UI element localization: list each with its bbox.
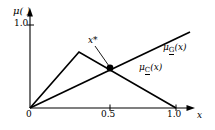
x-star-point-marker [107, 65, 114, 72]
fuzzy-underbar-icon [145, 74, 150, 75]
x-axis-label: x [197, 111, 202, 120]
constraint-curve-subscript-text: C [145, 66, 150, 74]
x-star-annotation: x* [88, 36, 98, 45]
x-tick-label-0: 0 [26, 110, 32, 119]
goal-curve-label-subscript: G [169, 47, 175, 54]
constraint-curve-label: μC(x) [139, 63, 162, 74]
x-axis-arrow-icon [187, 105, 196, 111]
x-tick-label-05: 0.5 [101, 110, 115, 119]
figure-canvas: μ( ) 1.0 0 0.5 1.0 x x* μG(x) μC(x) [0, 0, 215, 130]
goal-curve-label-arg: (x) [174, 42, 186, 52]
goal-curve-label: μG(x) [163, 43, 187, 54]
constraint-curve-label-arg: (x) [150, 62, 162, 72]
goal-curve-subscript-text: G [169, 46, 175, 54]
y-tick-label-1: 1.0 [14, 19, 28, 28]
fuzzy-underbar-icon [169, 54, 175, 55]
constraint-curve-label-subscript: C [145, 67, 150, 74]
x-tick-label-10: 1.0 [167, 110, 181, 119]
y-axis-label: μ( ) [13, 6, 30, 16]
constraint-curve-mu-c [30, 52, 176, 108]
